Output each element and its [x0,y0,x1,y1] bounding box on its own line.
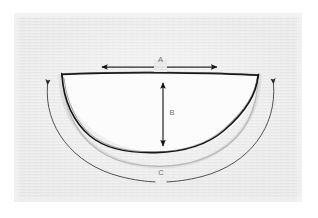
plate-edge-bottom [14,197,302,202]
plate-edge-left [14,13,19,202]
dimension-b-label: B [169,108,174,117]
figure-root: A B C [0,0,318,218]
plate-edge-top [14,13,302,17]
diagram-canvas: A B C [0,0,318,218]
dimension-c-label: C [158,168,164,177]
plate-edge-right [297,13,302,202]
dimension-a-label: A [158,55,163,64]
